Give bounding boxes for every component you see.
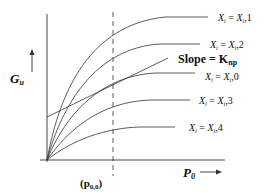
curve-xi-3 [47, 100, 190, 160]
x-axis-arrowhead-icon [216, 170, 222, 175]
slope-tangent-line [47, 58, 168, 117]
curve-xi-0 [47, 73, 195, 160]
y-axis-arrowhead-icon [30, 49, 35, 55]
y-axis-label: Gu [10, 71, 24, 87]
curve-xi-4 [47, 127, 175, 160]
slope-label: Slope = Knp [178, 52, 238, 67]
curve-label-xi-1: Xi = Xi,1 [217, 12, 252, 24]
curve-label-xi-4: Xi = Xi,4 [188, 122, 223, 134]
curve-label-xi-0: Xi = Xi,0 [204, 71, 239, 83]
operating-point-label: (p0,0) [80, 177, 103, 191]
curve-xi-1 [47, 17, 208, 160]
curve-label-xi-3: Xi = Xi,3 [198, 95, 233, 107]
x-axis-label: P0 [183, 165, 195, 181]
gain-vs-power-diagram: Gu P0 (p0,0) Slope = Knp Xi = Xi,1 Xi = … [0, 0, 265, 193]
curve-label-xi-2: Xi = Xi,2 [209, 39, 244, 51]
